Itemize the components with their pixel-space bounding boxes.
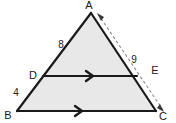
vertex-label-c: C [159, 110, 167, 122]
vertex-label-a: A [85, 0, 93, 11]
geometry-diagram: Triangle ABC with segment DE parallel to… [0, 0, 176, 123]
vertex-label-b: B [4, 109, 11, 121]
triangle-figure: Triangle ABC with segment DE parallel to… [0, 0, 176, 123]
vertex-label-e: E [151, 64, 158, 76]
measure-label-ae: 9 [131, 54, 137, 65]
vertex-label-d: D [29, 69, 37, 81]
measure-label-ad: 8 [58, 39, 64, 50]
measure-label-db: 4 [13, 87, 19, 98]
dashed-arrowhead-a-icon [97, 13, 104, 21]
